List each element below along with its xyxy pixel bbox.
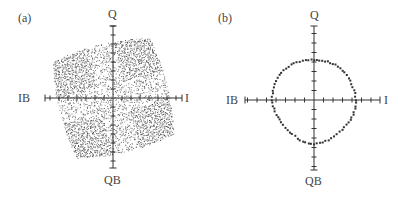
panel-b-plot [204, 0, 408, 198]
axes [45, 26, 182, 168]
panel-a-plot [0, 0, 204, 198]
panel-a: (a) Q QB IB I [0, 0, 204, 198]
constellation-a-points [53, 38, 174, 158]
panel-b: (b) Q QB IB I [204, 0, 408, 198]
axes [245, 26, 380, 170]
